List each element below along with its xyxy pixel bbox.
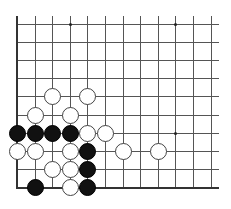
grid-line-horizontal — [17, 78, 219, 79]
black-stone[interactable] — [79, 143, 96, 160]
white-stone[interactable] — [97, 125, 114, 142]
grid-line-vertical — [123, 16, 124, 187]
grid-line-horizontal — [17, 60, 219, 61]
black-stone[interactable] — [44, 125, 61, 142]
grid-line-vertical — [211, 16, 212, 187]
white-stone[interactable] — [62, 107, 79, 124]
white-stone[interactable] — [9, 143, 26, 160]
white-stone[interactable] — [62, 161, 79, 178]
white-stone[interactable] — [44, 161, 61, 178]
white-stone[interactable] — [62, 179, 79, 196]
grid-line-horizontal — [17, 115, 219, 116]
black-stone[interactable] — [79, 179, 96, 196]
star-point — [174, 23, 177, 26]
grid-line-vertical — [105, 16, 106, 187]
black-stone[interactable] — [79, 161, 96, 178]
black-stone[interactable] — [62, 125, 79, 142]
white-stone[interactable] — [150, 143, 167, 160]
white-stone[interactable] — [44, 88, 61, 105]
grid-line-vertical — [193, 16, 194, 187]
grid-line-vertical — [35, 16, 36, 187]
white-stone[interactable] — [62, 143, 79, 160]
white-stone[interactable] — [27, 107, 44, 124]
white-stone[interactable] — [115, 143, 132, 160]
grid-line-vertical — [158, 16, 159, 187]
white-stone[interactable] — [79, 88, 96, 105]
grid-line-vertical — [140, 16, 141, 187]
white-stone[interactable] — [79, 125, 96, 142]
star-point — [174, 132, 177, 135]
board-edge-left — [16, 16, 18, 189]
board-edge-bottom — [16, 187, 219, 189]
black-stone[interactable] — [27, 179, 44, 196]
black-stone[interactable] — [9, 125, 26, 142]
black-stone[interactable] — [27, 125, 44, 142]
white-stone[interactable] — [27, 143, 44, 160]
grid-line-horizontal — [17, 42, 219, 43]
go-board[interactable] — [0, 0, 231, 209]
star-point — [69, 23, 72, 26]
grid-line-horizontal — [17, 24, 219, 25]
grid-line-vertical — [175, 16, 176, 187]
